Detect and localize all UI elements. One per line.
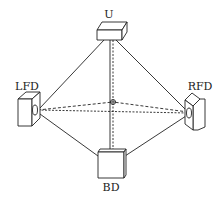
edge-u-lfd xyxy=(40,40,104,108)
speaker-bd xyxy=(98,149,126,178)
label-u: U xyxy=(104,8,113,21)
label-bd: BD xyxy=(103,181,120,194)
speaker-lfd xyxy=(18,92,40,126)
edge-u-rfd xyxy=(116,40,186,110)
edge-lfd-bd xyxy=(40,114,98,156)
speaker-u xyxy=(97,22,127,40)
dashed-lfd-center xyxy=(38,102,113,110)
loudspeaker-setup-diagram: U LFD RFD BD xyxy=(0,0,219,199)
edge-rfd-bd xyxy=(125,116,186,156)
speaker-rfd xyxy=(185,93,205,130)
dashed-rfd-center xyxy=(113,102,188,112)
label-rfd: RFD xyxy=(188,80,213,93)
label-lfd: LFD xyxy=(15,80,39,93)
